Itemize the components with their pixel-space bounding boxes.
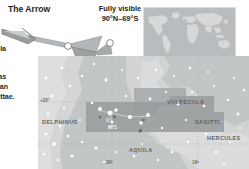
figure-title: The Arrow	[8, 4, 50, 14]
body-text-fragment-3: s an	[0, 82, 8, 91]
world-visibility-map	[143, 7, 236, 59]
arrow-head-shape	[2, 28, 36, 44]
arrow-star-node-delta	[65, 43, 72, 50]
star-chart: VULPECULA DELPHINUS SAGITTA AQUILA HERCU…	[38, 56, 249, 169]
sagitta-page-figure: uila has s an gittae. The Arrow Fully vi…	[0, 0, 249, 169]
body-text-fragment-2: has	[0, 72, 6, 81]
body-text-fragment-4: gittae.	[0, 92, 14, 101]
arrow-star-node-gamma	[107, 40, 114, 47]
